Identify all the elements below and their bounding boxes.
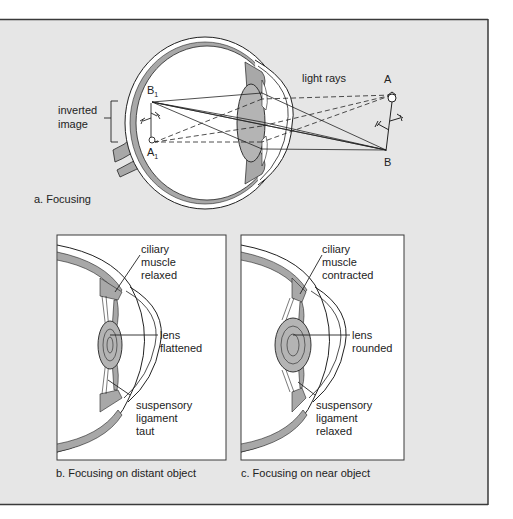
panel-c-ciliary-line2: muscle	[322, 256, 357, 269]
point-b-label: B	[384, 156, 391, 169]
point-b1-subscript: 1	[154, 91, 158, 98]
panel-c-ligament-line1: suspensory	[316, 399, 372, 412]
light-rays-label: light rays	[302, 72, 346, 85]
panel-b-lens-line2: flattened	[160, 342, 202, 355]
panel-b-ciliary-line2: muscle	[141, 256, 176, 269]
point-a1-subscript: 1	[154, 153, 158, 160]
panel-b-ligament-line1: suspensory	[136, 399, 192, 412]
panel-b-ligament-line2: ligament	[136, 412, 178, 425]
lens-flattened	[98, 321, 122, 369]
inverted-image-label-line1: inverted	[58, 104, 97, 117]
eye-focusing-figure: inverted image light rays A B B1 A1 a. F…	[0, 0, 513, 519]
panel-a-caption: a. Focusing	[34, 193, 91, 206]
panel-c-caption: c. Focusing on near object	[241, 467, 370, 480]
point-a1-label: A1	[147, 146, 158, 163]
inverted-image-label-line2: image	[58, 118, 88, 131]
panel-b-ciliary-line3: relaxed	[141, 269, 177, 282]
point-a-label: A	[384, 73, 391, 86]
panel-b-lens-line1: lens	[160, 329, 180, 342]
panel-c-ligament-line2: ligament	[316, 412, 358, 425]
lens	[237, 84, 265, 162]
panel-c-ciliary-line3: contracted	[322, 269, 373, 282]
panel-b-caption: b. Focusing on distant object	[56, 467, 196, 480]
panel-c-ligament-line3: relaxed	[316, 425, 352, 438]
panel-b-ligament-line3: taut	[136, 425, 154, 438]
point-b1-label: B1	[147, 84, 158, 101]
figure-artwork	[0, 0, 513, 519]
panel-c-ciliary-line1: ciliary	[322, 243, 350, 256]
panel-c-lens-line1: lens	[352, 329, 372, 342]
panel-b-ciliary-line1: ciliary	[141, 243, 169, 256]
panel-c-lens-line2: rounded	[352, 342, 392, 355]
